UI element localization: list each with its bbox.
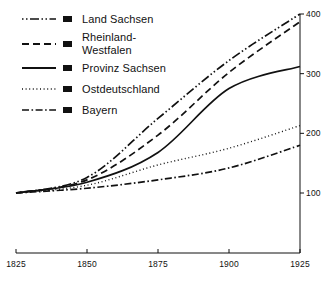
legend-line-sample-dash-dot <box>22 104 56 116</box>
legend-swatch <box>63 65 72 71</box>
legend-label-provinz-sachsen: Provinz Sachsen <box>82 62 166 75</box>
x-tick-label: 1825 <box>6 259 26 269</box>
chart-container: Land Sachsen Rheinland- Westfalen Provin… <box>0 0 329 282</box>
legend-label-rheinland-westfalen: Rheinland- Westfalen <box>82 31 136 56</box>
y-tick-label: 100 <box>306 188 321 198</box>
y-tick-label: 200 <box>306 128 321 138</box>
x-tick-label: 1900 <box>219 259 239 269</box>
x-tick-label: 1875 <box>148 259 168 269</box>
legend-label-land-sachsen: Land Sachsen <box>82 13 154 26</box>
y-tick-label: 400 <box>306 9 321 19</box>
legend-line-sample-dashed <box>22 38 56 50</box>
legend-swatch <box>63 41 72 47</box>
legend-swatch <box>63 16 72 22</box>
legend-line-sample-dotted <box>22 83 56 95</box>
legend-line-sample-dash-dot-dot <box>22 13 56 25</box>
chart-legend: Land Sachsen Rheinland- Westfalen Provin… <box>22 10 212 122</box>
legend-label-bayern: Bayern <box>82 104 117 117</box>
legend-item-bayern: Bayern <box>22 101 212 119</box>
legend-item-rheinland-westfalen: Rheinland- Westfalen <box>22 31 212 56</box>
legend-line-sample-solid <box>22 62 56 74</box>
legend-swatch <box>63 107 72 113</box>
legend-swatch <box>63 86 72 92</box>
x-tick-label: 1925 <box>290 259 310 269</box>
legend-item-ostdeutschland: Ostdeutschland <box>22 80 212 98</box>
y-tick-label: 300 <box>306 69 321 79</box>
x-tick-label: 1850 <box>77 259 97 269</box>
legend-item-land-sachsen: Land Sachsen <box>22 10 212 28</box>
legend-label-ostdeutschland: Ostdeutschland <box>82 83 160 96</box>
legend-item-provinz-sachsen: Provinz Sachsen <box>22 59 212 77</box>
